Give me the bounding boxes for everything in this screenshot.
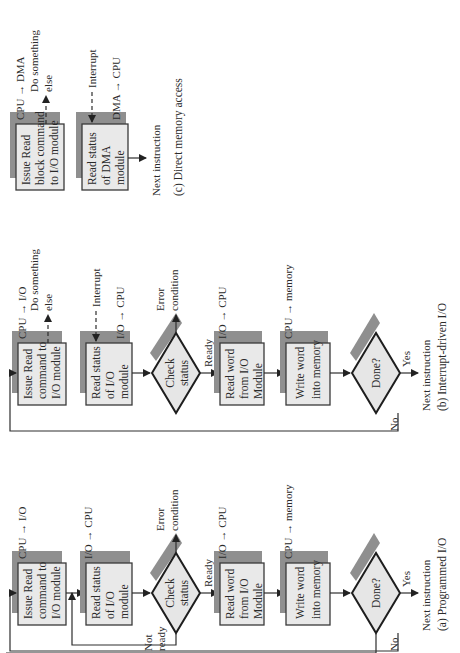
done-decision: Done?: [350, 533, 400, 633]
svg-text:module: module: [114, 151, 126, 186]
svg-text:status: status: [178, 359, 190, 386]
svg-text:CPU → memory: CPU → memory: [282, 484, 294, 559]
svg-text:command to: command to: [36, 342, 48, 399]
svg-text:CPU → memory: CPU → memory: [282, 264, 294, 339]
svg-text:module: module: [118, 365, 130, 400]
check-status-decision: Check status: [150, 313, 200, 413]
svg-text:Read word: Read word: [224, 569, 236, 619]
svg-text:Read status: Read status: [86, 132, 98, 185]
svg-text:Write word: Write word: [294, 567, 306, 619]
svg-text:I/O → CPU: I/O → CPU: [216, 286, 228, 339]
svg-text:status: status: [178, 579, 190, 606]
svg-text:of I/O: of I/O: [104, 591, 116, 619]
check-status-decision: Check status: [150, 533, 200, 633]
svg-text:Read status: Read status: [90, 566, 102, 619]
read-status-dma-box: Read status of DMA module: [76, 112, 128, 190]
done-decision: Done?: [350, 313, 400, 413]
svg-text:Read status: Read status: [90, 346, 102, 399]
next-instruction-label: Next instruction: [420, 559, 432, 631]
svg-text:Read word: Read word: [224, 349, 236, 399]
annotation-cpu-io: CPU → I/O: [16, 506, 28, 559]
svg-text:Ready: Ready: [202, 338, 214, 367]
svg-text:Check: Check: [164, 358, 176, 388]
svg-text:I/O module: I/O module: [50, 566, 62, 619]
svg-text:Next instruction: Next instruction: [150, 124, 162, 196]
svg-text:Done?: Done?: [370, 578, 382, 608]
svg-text:DMA → CPU: DMA → CPU: [110, 57, 122, 120]
svg-text:Next instruction: Next instruction: [420, 339, 432, 411]
svg-text:Issue Read: Issue Read: [22, 569, 34, 619]
svg-text:of DMA: of DMA: [100, 145, 112, 185]
svg-text:condition: condition: [168, 269, 180, 311]
svg-text:Not: Not: [142, 635, 154, 652]
panel-interrupt-driven-io: Issue Read command to I/O module CPU → I…: [10, 248, 449, 431]
svg-text:into memory: into memory: [310, 560, 323, 619]
read-status-box: Read status of I/O module: [80, 551, 132, 625]
svg-text:Check: Check: [164, 578, 176, 608]
read-status-box: Read status of I/O module: [80, 331, 132, 405]
svg-text:ready: ready: [155, 626, 167, 651]
panel-caption: (b) Interrupt-driven I/O: [436, 303, 449, 411]
svg-text:Error: Error: [154, 287, 166, 311]
svg-text:command to: command to: [36, 562, 48, 619]
svg-text:Yes: Yes: [400, 351, 412, 367]
svg-text:Module: Module: [252, 363, 264, 399]
svg-text:Write word: Write word: [294, 347, 306, 399]
svg-text:else: else: [42, 294, 54, 311]
svg-text:Ready: Ready: [202, 558, 214, 587]
svg-text:Issue Read: Issue Read: [20, 135, 32, 185]
svg-text:Done?: Done?: [370, 358, 382, 388]
panel-direct-memory-access: Issue Read block command to I/O module C…: [10, 29, 185, 196]
svg-text:from I/O: from I/O: [238, 358, 250, 399]
svg-text:Do something: Do something: [28, 29, 40, 92]
panel-caption: (c) Direct memory access: [172, 78, 185, 196]
svg-text:CPU → I/O: CPU → I/O: [16, 286, 28, 339]
issue-read-box: Issue Read command to I/O module: [12, 331, 66, 405]
svg-text:to I/O module: to I/O module: [48, 120, 60, 185]
read-word-box: Read word from I/O Module: [214, 551, 264, 625]
svg-text:condition: condition: [168, 489, 180, 531]
read-word-box: Read word from I/O Module: [214, 331, 264, 405]
svg-text:I/O module: I/O module: [50, 346, 62, 399]
svg-text:I/O → CPU: I/O → CPU: [216, 506, 228, 559]
issue-read-block-box: Issue Read block command to I/O module: [10, 111, 64, 190]
panel-caption: (a) Programmed I/O: [436, 538, 449, 631]
svg-text:Interrupt: Interrupt: [86, 50, 98, 88]
svg-text:I/O → CPU: I/O → CPU: [114, 286, 126, 339]
issue-read-box: Issue Read command to I/O module: [12, 551, 66, 625]
svg-text:Error: Error: [154, 507, 166, 531]
svg-text:into memory: into memory: [310, 340, 323, 399]
svg-text:Interrupt: Interrupt: [90, 269, 102, 307]
svg-text:module: module: [118, 585, 130, 620]
write-word-box: Write word into memory: [280, 331, 330, 405]
svg-text:Yes: Yes: [400, 571, 412, 587]
svg-text:block command: block command: [34, 111, 46, 185]
io-techniques-figure: Issue Read command to I/O module CPU → I…: [0, 0, 460, 653]
svg-text:Do something: Do something: [28, 248, 40, 311]
svg-text:CPU → DMA: CPU → DMA: [14, 56, 26, 120]
write-word-box: Write word into memory: [280, 551, 330, 625]
svg-text:Issue Read: Issue Read: [22, 349, 34, 399]
svg-text:else: else: [42, 75, 54, 92]
annotation-io-cpu: I/O → CPU: [82, 506, 94, 559]
svg-text:Module: Module: [252, 583, 264, 619]
panel-programmed-io: Issue Read command to I/O module CPU → I…: [6, 484, 449, 653]
svg-text:from I/O: from I/O: [238, 578, 250, 619]
svg-text:of I/O: of I/O: [104, 371, 116, 399]
